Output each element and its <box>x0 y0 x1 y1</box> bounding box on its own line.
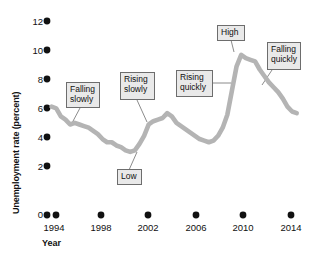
y-axis-tick-dots <box>44 18 51 219</box>
callout-high: High <box>217 25 245 41</box>
leader-line-falling-slowly <box>72 108 80 123</box>
leader-line-low <box>129 152 137 170</box>
x-axis-tick-dots <box>53 212 295 219</box>
callout-low: Low <box>117 169 142 185</box>
callout-leader-lines <box>72 40 272 170</box>
callout-falling-quickly: Falling quickly <box>267 42 301 70</box>
callout-rising-slowly: Rising slowly <box>120 72 155 100</box>
chart-canvas <box>0 0 312 262</box>
leader-line-high <box>231 40 234 52</box>
callout-rising-quickly: Rising quickly <box>176 70 213 97</box>
leader-line-rising-slowly <box>137 100 147 122</box>
callout-falling-slowly: Falling slowly <box>66 82 100 108</box>
unemployment-rate-chart: Unemployment rate (percent) 12 10 8 6 4 … <box>0 0 312 262</box>
